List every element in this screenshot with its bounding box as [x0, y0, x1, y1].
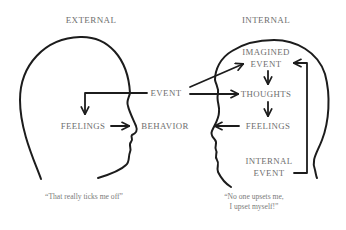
- imagined-event-label: EVENT: [251, 59, 282, 69]
- left-feelings-label: FEELINGS: [61, 121, 106, 131]
- right-quote-line1: “No one upsets me,: [224, 192, 284, 201]
- imagined-label: IMAGINED: [242, 47, 290, 57]
- internal-title: INTERNAL: [242, 15, 290, 25]
- internal-to-imagined-loop-arrow: [294, 63, 307, 173]
- cbt-diagram: EXTERNAL INTERNAL EVENT BEHAVIOR FEELING…: [0, 0, 346, 230]
- left-head-outline: [20, 37, 137, 179]
- right-feelings-label: FEELINGS: [246, 121, 291, 131]
- event-label: EVENT: [151, 88, 182, 98]
- external-title: EXTERNAL: [66, 15, 117, 25]
- event-to-left-feelings-arrow: [85, 93, 147, 114]
- right-quote-line2: I upset myself!”: [230, 202, 279, 211]
- internal-label: INTERNAL: [245, 156, 292, 166]
- left-quote: “That really ticks me off”: [45, 192, 123, 201]
- internal-event-label: EVENT: [254, 168, 285, 178]
- thoughts-label: THOUGHTS: [241, 89, 292, 99]
- behavior-label: BEHAVIOR: [141, 121, 189, 131]
